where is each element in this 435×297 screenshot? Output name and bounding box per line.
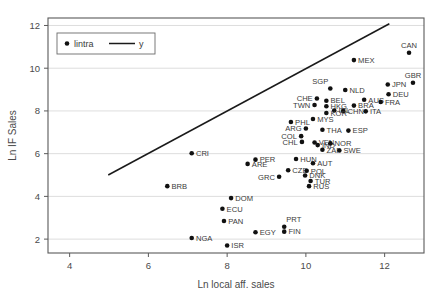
- data-point-label: ISR: [231, 241, 244, 250]
- legend-label-lintra: lintra: [74, 39, 94, 49]
- data-point: [311, 117, 316, 122]
- y-axis-title: Ln IF Sales: [7, 110, 18, 161]
- data-point: [315, 96, 320, 101]
- data-point: [189, 236, 194, 241]
- data-points-group: CANMEXGBRJPNSGPNLDDEUCHEBELAUSFRATWNHKGB…: [165, 41, 422, 251]
- data-point: [386, 92, 391, 97]
- data-point-label: MYS: [317, 115, 333, 124]
- data-point: [346, 128, 351, 133]
- data-point-label: JPN: [392, 80, 406, 89]
- data-point-label: BRB: [171, 182, 187, 191]
- data-point: [294, 157, 299, 162]
- data-point: [229, 196, 234, 201]
- data-point: [245, 162, 250, 167]
- data-point: [253, 230, 258, 235]
- data-point: [312, 103, 317, 108]
- y-tick-label: 10: [29, 63, 40, 74]
- data-point: [324, 98, 329, 103]
- data-point: [286, 168, 291, 173]
- data-point: [385, 82, 390, 87]
- data-point: [308, 179, 313, 184]
- scatter-plot-figure: 24681012 4681012 CANMEXGBRJPNSGPNLDDEUCH…: [0, 0, 435, 297]
- data-point-label: SGP: [312, 77, 328, 86]
- data-point: [320, 148, 325, 153]
- x-tick-label: 10: [301, 260, 312, 271]
- data-point-label: CHN: [347, 107, 363, 116]
- data-point: [311, 161, 316, 166]
- data-point: [277, 174, 282, 179]
- data-point-label: EGY: [260, 228, 276, 237]
- y-tick-label: 4: [35, 191, 40, 202]
- data-point: [220, 206, 225, 211]
- data-point: [304, 126, 309, 131]
- data-point: [303, 173, 308, 178]
- legend-marker-icon: [65, 41, 70, 46]
- x-axis-title: Ln local aff. sales: [197, 279, 274, 290]
- plot-canvas: 24681012 4681012 CANMEXGBRJPNSGPNLDDEUCH…: [0, 0, 435, 297]
- data-point: [165, 184, 170, 189]
- data-point-label: CRI: [196, 149, 209, 158]
- data-point: [320, 127, 325, 132]
- data-point-label: TWN: [293, 101, 310, 110]
- data-point: [282, 224, 287, 229]
- data-point-label: GRC: [258, 173, 275, 182]
- data-point: [300, 140, 305, 145]
- x-tick-label: 4: [67, 260, 72, 271]
- data-point-label: NGA: [196, 234, 213, 243]
- data-point-label: THA: [327, 126, 343, 135]
- data-point: [337, 148, 342, 153]
- x-tick-label: 6: [146, 260, 151, 271]
- data-point-label: RUS: [313, 182, 329, 191]
- data-point: [225, 243, 230, 248]
- data-point-label: NLD: [349, 86, 365, 95]
- data-point-label: ITA: [370, 107, 382, 116]
- data-point: [363, 109, 368, 114]
- x-tick-label: 8: [224, 260, 229, 271]
- data-point-label: ECU: [227, 205, 243, 214]
- data-point-label: FRA: [385, 98, 401, 107]
- data-point: [282, 229, 287, 234]
- data-point-label: PRT: [286, 215, 301, 224]
- y-tick-label: 2: [35, 234, 40, 245]
- data-point-label: ESP: [353, 126, 368, 135]
- y-tick-label: 6: [35, 148, 40, 159]
- data-point: [307, 184, 312, 189]
- data-point-label: ARE: [252, 160, 268, 169]
- legend: lintray: [57, 33, 155, 54]
- data-point-label: MEX: [358, 56, 374, 65]
- legend-label-y: y: [139, 39, 144, 49]
- x-axis-ticks-group: 4681012: [67, 253, 390, 271]
- data-point: [222, 219, 227, 224]
- data-point: [352, 58, 357, 63]
- data-point-label: DOM: [235, 194, 253, 203]
- data-point: [315, 143, 320, 148]
- data-point-label: PAN: [228, 217, 243, 226]
- data-point-label: CHL: [283, 138, 298, 147]
- data-point: [304, 168, 309, 173]
- y-tick-label: 12: [29, 20, 40, 31]
- data-point: [189, 151, 194, 156]
- data-point-label: FIN: [288, 227, 300, 236]
- data-point: [328, 86, 333, 91]
- data-point: [378, 100, 383, 105]
- data-point: [299, 134, 304, 139]
- y-tick-label: 8: [35, 105, 40, 116]
- x-tick-label: 12: [379, 260, 390, 271]
- data-point: [411, 80, 416, 85]
- data-point-label: GBR: [405, 71, 422, 80]
- data-point: [343, 88, 348, 93]
- data-point: [324, 104, 329, 109]
- data-point-label: CAN: [401, 41, 417, 50]
- y-axis-ticks-group: 24681012: [29, 20, 48, 245]
- data-point-label: SWE: [344, 146, 361, 155]
- data-point: [407, 51, 412, 56]
